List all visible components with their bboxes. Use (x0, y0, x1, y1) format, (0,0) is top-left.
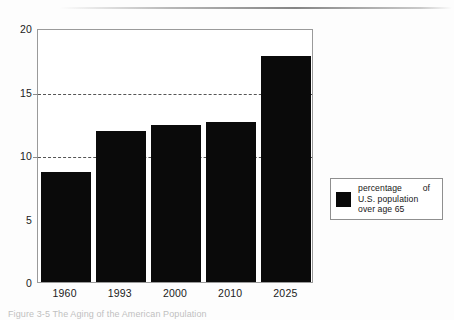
y-tick-label: 5 (6, 214, 32, 226)
legend-label-line-1: percentage of (358, 183, 430, 194)
bar (151, 125, 201, 282)
legend-label-line-3: over age 65 (358, 204, 430, 215)
y-tick-label: 0 (6, 277, 32, 289)
y-tick-label: 20 (6, 23, 32, 35)
bar (96, 131, 146, 282)
scan-artifact-line (60, 7, 452, 9)
figure-caption: Figure 3-5 The Aging of the American Pop… (8, 309, 207, 319)
figure-container: 05101520 19601993200020102025 percentage… (0, 0, 454, 320)
x-tick-label: 2025 (273, 287, 297, 299)
x-tick-label: 1960 (53, 287, 77, 299)
x-tick-label: 2000 (163, 287, 187, 299)
y-axis-labels: 05101520 (0, 29, 32, 283)
x-tick-label: 1993 (108, 287, 132, 299)
bars-layer (38, 30, 312, 282)
y-tick-label: 10 (6, 150, 32, 162)
bar (261, 56, 311, 282)
x-axis-labels: 19601993200020102025 (37, 287, 313, 303)
legend-label: percentage of U.S. population over age 6… (358, 183, 430, 215)
legend: percentage of U.S. population over age 6… (330, 178, 443, 220)
bar (206, 122, 256, 282)
legend-swatch-icon (336, 192, 351, 207)
legend-label-line-2: U.S. population (358, 194, 430, 205)
x-tick-label: 2010 (218, 287, 242, 299)
y-tick-label: 15 (6, 87, 32, 99)
plot-area (37, 29, 313, 283)
bar (41, 172, 91, 282)
